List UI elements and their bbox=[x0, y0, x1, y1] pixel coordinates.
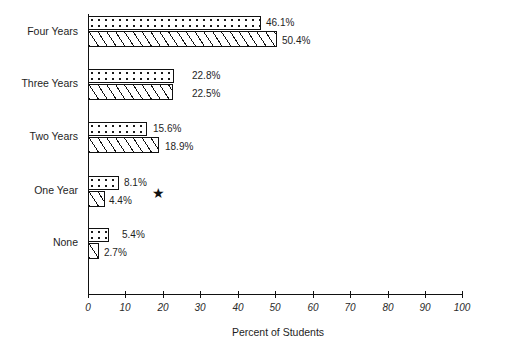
bar-one-year-dotted bbox=[88, 176, 119, 190]
x-tick-30 bbox=[200, 291, 201, 298]
x-axis-title: Percent of Students bbox=[232, 327, 324, 338]
x-tick-100 bbox=[462, 291, 463, 298]
y-axis-line bbox=[88, 14, 89, 295]
x-tick-80 bbox=[388, 291, 389, 298]
bar-two-years-dotted bbox=[88, 122, 147, 136]
value-label-four-years-dotted: 46.1% bbox=[266, 18, 294, 28]
bar-chart: Four Years Three Years Two Years One Yea… bbox=[0, 0, 505, 356]
category-label-one-year: One Year bbox=[34, 185, 78, 196]
bar-none-hatched bbox=[88, 243, 99, 259]
x-tick-50 bbox=[275, 291, 276, 298]
x-tick-label-50: 50 bbox=[269, 303, 280, 313]
value-label-three-years-hatched: 22.5% bbox=[192, 89, 220, 99]
value-label-four-years-hatched: 50.4% bbox=[282, 36, 310, 46]
value-label-one-year-dotted: 8.1% bbox=[124, 178, 147, 188]
x-tick-label-100: 100 bbox=[454, 303, 471, 313]
value-label-two-years-hatched: 18.9% bbox=[165, 142, 193, 152]
footnote-star-icon: ★ bbox=[152, 186, 165, 200]
x-tick-label-80: 80 bbox=[382, 303, 393, 313]
scan-artifact-text bbox=[352, 0, 502, 6]
bar-four-years-hatched bbox=[88, 31, 277, 47]
category-label-three-years: Three Years bbox=[21, 78, 78, 89]
x-tick-90 bbox=[425, 291, 426, 298]
x-tick-label-60: 60 bbox=[307, 303, 318, 313]
x-tick-0 bbox=[88, 291, 89, 298]
x-tick-60 bbox=[313, 291, 314, 298]
x-tick-40 bbox=[238, 291, 239, 298]
category-label-two-years: Two Years bbox=[30, 131, 78, 142]
x-tick-label-0: 0 bbox=[85, 303, 91, 313]
x-tick-label-30: 30 bbox=[194, 303, 205, 313]
value-label-none-dotted: 5.4% bbox=[122, 230, 145, 240]
value-label-two-years-dotted: 15.6% bbox=[153, 124, 181, 134]
category-label-none: None bbox=[53, 237, 78, 248]
bar-four-years-dotted bbox=[88, 16, 261, 30]
x-tick-label-70: 70 bbox=[344, 303, 355, 313]
bar-one-year-hatched bbox=[88, 191, 105, 207]
x-tick-label-20: 20 bbox=[157, 303, 168, 313]
x-tick-label-90: 90 bbox=[419, 303, 430, 313]
bar-three-years-dotted bbox=[88, 69, 174, 83]
x-tick-label-10: 10 bbox=[119, 303, 130, 313]
value-label-none-hatched: 2.7% bbox=[104, 248, 127, 258]
x-tick-70 bbox=[350, 291, 351, 298]
bar-none-dotted bbox=[88, 228, 109, 242]
x-tick-20 bbox=[163, 291, 164, 298]
value-label-three-years-dotted: 22.8% bbox=[192, 71, 220, 81]
category-label-four-years: Four Years bbox=[27, 26, 78, 37]
bar-two-years-hatched bbox=[88, 137, 159, 153]
x-tick-10 bbox=[125, 291, 126, 298]
x-tick-label-40: 40 bbox=[232, 303, 243, 313]
value-label-one-year-hatched: 4.4% bbox=[109, 196, 132, 206]
bar-three-years-hatched bbox=[88, 84, 173, 100]
